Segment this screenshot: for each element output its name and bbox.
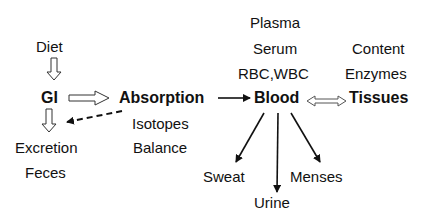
node-excretion: Excretion xyxy=(15,139,78,156)
arrow-blood-to-urine xyxy=(277,113,278,192)
node-content: Content xyxy=(352,40,405,57)
arrow-blood-to-menses xyxy=(291,113,320,162)
arrow-blood-to-sweat xyxy=(236,113,264,162)
node-gi: GI xyxy=(41,89,58,106)
node-balance: Balance xyxy=(133,139,187,156)
node-menses: Menses xyxy=(290,168,343,185)
node-tissues: Tissues xyxy=(349,89,408,106)
node-serum: Serum xyxy=(253,40,297,57)
diagram-arrows xyxy=(0,0,423,221)
node-sweat: Sweat xyxy=(203,168,245,185)
node-isotopes: Isotopes xyxy=(132,115,189,132)
arrow-diet-to-gi xyxy=(47,58,61,80)
node-absorption: Absorption xyxy=(119,89,204,106)
arrow-blood-tissues xyxy=(307,96,346,106)
node-blood: Blood xyxy=(254,89,299,106)
node-enzymes: Enzymes xyxy=(345,65,407,82)
arrow-gi-to-absorption xyxy=(69,91,109,105)
arrow-gi-to-excretion xyxy=(42,109,56,132)
node-urine: Urine xyxy=(254,194,290,211)
node-feces: Feces xyxy=(25,164,66,181)
node-plasma: Plasma xyxy=(250,14,300,31)
arrow-absorption-to-excretion xyxy=(67,111,122,122)
node-diet: Diet xyxy=(36,38,63,55)
node-rbc-wbc: RBC,WBC xyxy=(238,65,309,82)
